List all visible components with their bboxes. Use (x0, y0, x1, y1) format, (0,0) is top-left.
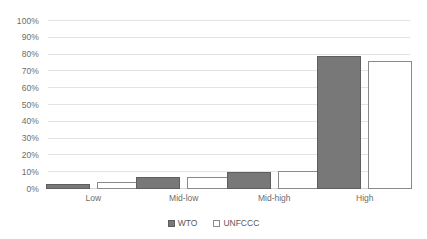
bar-unfccc-mid-high (278, 171, 322, 189)
y-axis-tick-label: 100% (17, 17, 39, 26)
outlined-square-icon (213, 220, 220, 227)
bars-layer (48, 21, 410, 189)
bar-wto-high (317, 56, 361, 189)
legend-item-unfccc[interactable]: UNFCCC (213, 219, 259, 228)
filled-square-icon (168, 220, 175, 227)
bar-group (320, 21, 411, 189)
x-axis-tick-label: Low (85, 194, 101, 203)
bar-group (229, 21, 320, 189)
legend-label: WTO (178, 219, 198, 228)
y-axis-tick-label: 50% (22, 101, 39, 110)
bar-unfccc-low (97, 182, 141, 189)
bar-unfccc-high (368, 61, 412, 189)
legend-item-wto[interactable]: WTO (168, 219, 198, 228)
x-axis-tick-label: High (356, 194, 373, 203)
y-axis-tick-label: 90% (22, 34, 39, 43)
y-axis-tick-label: 0% (27, 185, 40, 194)
y-axis-tick-label: 70% (22, 67, 39, 76)
y-axis-tick-label: 80% (22, 50, 39, 59)
bar-unfccc-mid-low (187, 177, 231, 189)
bar-group (48, 21, 139, 189)
y-axis-tick-label: 10% (22, 168, 39, 177)
x-axis-tick-label: Mid-low (169, 194, 198, 203)
x-axis: LowMid-lowMid-highHigh (48, 194, 410, 210)
y-axis-tick-label: 30% (22, 134, 39, 143)
y-axis-tick-label: 20% (22, 151, 39, 160)
chart-legend: WTOUNFCCC (0, 219, 427, 228)
bar-wto-low (46, 184, 90, 189)
bar-wto-mid-high (227, 172, 271, 189)
y-axis-tick-label: 40% (22, 118, 39, 127)
bar-chart: 0%10%20%30%40%50%60%70%80%90%100% LowMid… (0, 0, 427, 239)
bar-wto-mid-low (136, 177, 180, 189)
y-axis-tick-label: 60% (22, 84, 39, 93)
x-axis-tick-label: Mid-high (258, 194, 291, 203)
bar-group (139, 21, 230, 189)
y-axis: 0%10%20%30%40%50%60%70%80%90%100% (0, 21, 44, 189)
legend-label: UNFCCC (223, 219, 259, 228)
